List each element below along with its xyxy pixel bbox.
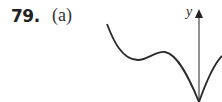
curve-left-branch <box>107 24 199 102</box>
curve-right-branch <box>199 56 222 102</box>
function-graph <box>0 0 222 102</box>
y-axis-arrow-icon <box>195 9 203 18</box>
